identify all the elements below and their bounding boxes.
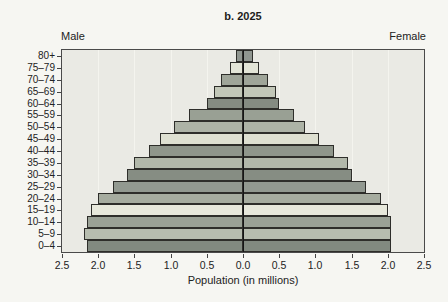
bar-female-60–64 [243,98,279,109]
age-tick-label: 80+ [0,50,55,62]
bar-male-65–69 [214,86,243,98]
bar-female-50–54 [243,121,305,133]
bar-female-40–44 [243,145,334,157]
bar-female-15–19 [243,204,388,216]
y-axis-tick [57,151,61,152]
bar-male-45–49 [160,133,243,145]
x-axis-title: Population (in millions) [123,274,363,286]
bar-male-0–4 [87,240,243,252]
x-axis-tick [134,254,135,258]
bar-female-25–29 [243,181,366,193]
x-axis-tick [279,254,280,258]
x-axis-tick-label: 2.0 [80,259,116,271]
x-axis-tick [171,254,172,258]
x-axis-tick [98,254,99,258]
bar-male-30–34 [127,169,243,181]
x-axis-tick-label: 2.0 [370,259,406,271]
male-side-label: Male [61,30,85,42]
y-axis-tick [57,80,61,81]
bar-male-80+ [236,50,243,62]
x-axis-tick-label: 1.0 [297,259,333,271]
bar-female-45–49 [243,133,319,145]
age-tick-label: 45–49 [0,133,55,145]
age-tick-label: 60–64 [0,98,55,110]
population-pyramid-figure: b. 2025 Male Female Population (in milli… [0,0,448,302]
bar-female-65–69 [243,86,276,98]
y-axis-tick [57,163,61,164]
y-axis-tick [57,210,61,211]
age-tick-label: 10–14 [0,216,55,228]
bar-female-80+ [243,50,253,62]
y-axis-tick [57,92,61,93]
y-axis-tick [57,104,61,105]
female-side-label: Female [389,30,426,42]
center-axis-line [243,50,244,252]
x-axis-tick-label: 2.5 [406,259,442,271]
x-axis-tick-label: 1.5 [334,259,370,271]
x-axis-tick-label: 1.0 [153,259,189,271]
bar-female-10–14 [243,216,391,228]
age-tick-label: 75–79 [0,62,55,74]
x-axis-tick [352,254,353,258]
x-axis-tick [62,254,63,258]
age-tick-label: 20–24 [0,193,55,205]
bar-male-20–24 [98,193,243,204]
age-tick-label: 55–59 [0,109,55,121]
bar-female-55–59 [243,109,294,121]
bar-female-0–4 [243,240,391,252]
bar-male-60–64 [207,98,243,109]
x-axis-tick-label: 0.5 [189,259,225,271]
age-tick-label: 40–44 [0,145,55,157]
bar-female-75–79 [243,62,259,74]
x-axis-tick-label: 1.5 [116,259,152,271]
age-tick-label: 15–19 [0,204,55,216]
plot-area [61,49,425,253]
y-axis-tick [57,56,61,57]
age-tick-label: 5–9 [0,228,55,240]
age-tick-label: 25–29 [0,181,55,193]
bar-male-25–29 [113,181,243,193]
age-tick-label: 30–34 [0,169,55,181]
bar-male-10–14 [87,216,243,228]
y-axis-tick [57,68,61,69]
bar-male-50–54 [174,121,243,133]
bar-female-30–34 [243,169,352,181]
x-axis-tick [424,254,425,258]
bar-female-5–9 [243,228,391,240]
y-axis-tick [57,187,61,188]
y-axis-tick [57,139,61,140]
bar-male-15–19 [91,204,243,216]
y-axis-tick [57,175,61,176]
x-axis-tick-label: 0.5 [261,259,297,271]
y-axis-tick [57,115,61,116]
x-axis-tick [243,254,244,258]
y-axis-tick [57,234,61,235]
bar-male-75–79 [230,62,243,74]
chart-title: b. 2025 [143,10,343,22]
bar-female-70–74 [243,74,268,86]
age-tick-label: 35–39 [0,157,55,169]
x-axis-tick [388,254,389,258]
x-axis-tick-label: 0.0 [225,259,261,271]
age-tick-label: 70–74 [0,74,55,86]
x-axis-tick [207,254,208,258]
x-axis-tick-label: 2.5 [44,259,80,271]
bar-male-40–44 [149,145,243,157]
x-axis-tick [315,254,316,258]
age-tick-label: 65–69 [0,86,55,98]
y-axis-tick [57,222,61,223]
bar-male-55–59 [189,109,243,121]
y-axis-tick [57,246,61,247]
bar-male-35–39 [134,157,243,169]
age-tick-label: 0–4 [0,240,55,252]
bar-male-5–9 [84,228,243,240]
bar-female-20–24 [243,193,381,204]
bar-male-70–74 [221,74,243,86]
age-tick-label: 50–54 [0,121,55,133]
bar-female-35–39 [243,157,348,169]
y-axis-tick [57,199,61,200]
y-axis-tick [57,127,61,128]
